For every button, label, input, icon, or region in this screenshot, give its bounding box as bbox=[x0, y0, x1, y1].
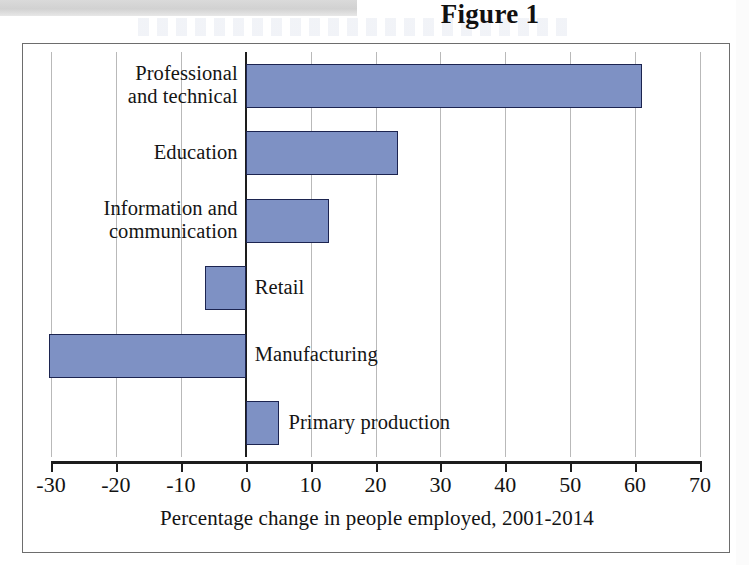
x-axis-title: Percentage change in people employed, 20… bbox=[23, 506, 731, 531]
x-axis-tick-label: 20 bbox=[346, 472, 406, 498]
scan-edge-right-margin bbox=[736, 0, 749, 565]
chart-frame: Professional and technicalEducationInfor… bbox=[22, 43, 730, 553]
x-axis-tick bbox=[700, 461, 702, 472]
category-label: Information and communication bbox=[104, 197, 238, 243]
bar bbox=[205, 266, 245, 310]
x-axis-tick-label: -20 bbox=[86, 472, 146, 498]
bar bbox=[246, 401, 280, 445]
gridline-10 bbox=[311, 52, 312, 457]
category-label: Manufacturing bbox=[255, 343, 378, 366]
x-axis-tick bbox=[246, 461, 248, 472]
x-axis-tick bbox=[570, 461, 572, 472]
category-label: Education bbox=[154, 141, 238, 164]
plot-area: Professional and technicalEducationInfor… bbox=[51, 52, 700, 457]
category-label: Professional and technical bbox=[128, 62, 238, 108]
page-title: Figure 1 bbox=[380, 0, 600, 30]
gridline-60 bbox=[635, 52, 636, 457]
gridline--20 bbox=[116, 52, 117, 457]
gridline--30 bbox=[51, 52, 52, 457]
x-axis-tick bbox=[116, 461, 118, 472]
x-axis-tick-label: 50 bbox=[540, 472, 600, 498]
x-axis-tick-label: 0 bbox=[216, 472, 276, 498]
scan-artifact-top-bar bbox=[0, 0, 357, 16]
bar bbox=[49, 334, 246, 378]
x-axis-tick bbox=[181, 461, 183, 472]
x-axis-tick bbox=[311, 461, 313, 472]
gridline--10 bbox=[181, 52, 182, 457]
x-axis-tick bbox=[505, 461, 507, 472]
gridline-40 bbox=[505, 52, 506, 457]
category-label: Primary production bbox=[288, 411, 450, 434]
x-axis-tick-label: 70 bbox=[670, 472, 730, 498]
x-axis-tick-label: 30 bbox=[410, 472, 470, 498]
gridline-70 bbox=[700, 52, 701, 457]
x-axis-tick bbox=[440, 461, 442, 472]
gridline-50 bbox=[570, 52, 571, 457]
x-axis-tick-label: 10 bbox=[281, 472, 341, 498]
category-label: Retail bbox=[255, 276, 305, 299]
x-axis-tick bbox=[51, 461, 53, 472]
bar bbox=[246, 199, 329, 243]
x-axis-tick bbox=[376, 461, 378, 472]
gridline-30 bbox=[440, 52, 441, 457]
x-axis-tick-label: -30 bbox=[21, 472, 81, 498]
bar bbox=[246, 64, 642, 108]
x-axis-tick bbox=[635, 461, 637, 472]
bar bbox=[246, 131, 398, 175]
gridline-20 bbox=[376, 52, 377, 457]
x-axis-tick-label: -10 bbox=[151, 472, 211, 498]
x-axis-tick-label: 40 bbox=[475, 472, 535, 498]
x-axis-tick-label: 60 bbox=[605, 472, 665, 498]
zero-line bbox=[245, 52, 247, 457]
